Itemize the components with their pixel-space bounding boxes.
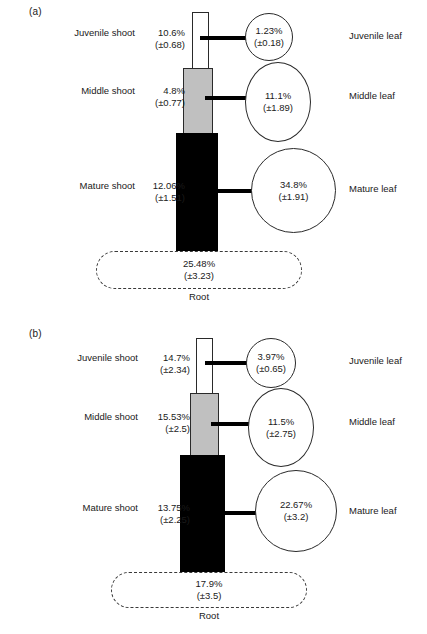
stem-segment-middle-a bbox=[183, 68, 213, 134]
leaf-middle-b-name: Middle leaf bbox=[349, 416, 395, 427]
leaf-mature-a-name: Mature leaf bbox=[349, 183, 397, 194]
shoot-mature-a-value: 12.06% bbox=[132, 180, 185, 192]
leaf-middle-a-name: Middle leaf bbox=[349, 90, 395, 101]
leaf-juvenile-a: 1.23% (±0.18) bbox=[245, 13, 293, 61]
panel-a: (a) 1.23% (±0.18) 11.1% (±1.89) 34.8% (±… bbox=[0, 0, 427, 310]
shoot-juvenile-a-value-group: 10.6% (±0.68) bbox=[139, 27, 185, 51]
stem-segment-juvenile-a bbox=[192, 12, 209, 69]
connector-mature-a bbox=[211, 189, 255, 193]
leaf-mature-a-error: (±1.91) bbox=[278, 191, 308, 203]
root-a-value: 25.48% bbox=[183, 258, 215, 270]
leaf-mature-b-error: (±3.2) bbox=[284, 511, 309, 523]
shoot-mature-a-error: (±1.51) bbox=[132, 192, 185, 204]
leaf-juvenile-b-value: 3.97% bbox=[258, 351, 285, 363]
leaf-juvenile-a-value: 1.23% bbox=[256, 25, 283, 37]
root-a-label: Root bbox=[96, 291, 302, 302]
connector-juvenile-a bbox=[200, 36, 249, 40]
root-b-error: (±3.5) bbox=[197, 590, 222, 602]
shoot-juvenile-a-name: Juvenile shoot bbox=[10, 27, 135, 38]
shoot-middle-a-name: Middle shoot bbox=[10, 85, 135, 96]
leaf-juvenile-b-error: (±0.65) bbox=[256, 363, 286, 375]
shoot-mature-a-value-group: 12.06% (±1.51) bbox=[132, 180, 185, 204]
leaf-middle-a: 11.1% (±1.89) bbox=[245, 62, 311, 142]
shoot-juvenile-b-error: (±2.34) bbox=[142, 364, 190, 376]
shoot-mature-b-value-group: 13.75% (±2.25) bbox=[136, 502, 190, 526]
shoot-juvenile-b-value: 14.7% bbox=[142, 352, 190, 364]
leaf-juvenile-b-name: Juvenile leaf bbox=[349, 355, 402, 366]
leaf-middle-b-value: 11.5% bbox=[268, 416, 294, 428]
leaf-juvenile-a-name: Juvenile leaf bbox=[349, 30, 402, 41]
leaf-middle-b: 11.5% (±2.75) bbox=[248, 388, 314, 467]
shoot-middle-a-error: (±0.77) bbox=[139, 97, 185, 109]
shoot-middle-b-error: (±2.5) bbox=[136, 423, 190, 435]
shoot-juvenile-b-value-group: 14.7% (±2.34) bbox=[142, 352, 190, 376]
shoot-mature-b-error: (±2.25) bbox=[136, 514, 190, 526]
root-a-error: (±3.23) bbox=[184, 270, 214, 282]
shoot-middle-a-value: 4.8% bbox=[139, 85, 185, 97]
leaf-middle-a-value: 11.1% bbox=[265, 90, 291, 102]
shoot-juvenile-a-error: (±0.68) bbox=[139, 39, 185, 51]
shoot-juvenile-b-name: Juvenile shoot bbox=[10, 352, 138, 363]
leaf-mature-b-name: Mature leaf bbox=[349, 505, 397, 516]
stem-segment-juvenile-b bbox=[196, 338, 213, 394]
leaf-juvenile-a-error: (±0.18) bbox=[254, 37, 284, 49]
connector-middle-b bbox=[211, 422, 251, 426]
panel-b: (b) 3.97% (±0.65) 11.5% (±2.75) 22.67% (… bbox=[0, 318, 427, 634]
leaf-mature-b: 22.67% (±3.2) bbox=[255, 470, 337, 552]
leaf-middle-b-error: (±2.75) bbox=[266, 428, 296, 440]
leaf-mature-b-value: 22.67% bbox=[280, 499, 312, 511]
shoot-mature-b-value: 13.75% bbox=[136, 502, 190, 514]
root-box-a: 25.48% (±3.23) bbox=[96, 251, 302, 289]
leaf-mature-a-value: 34.8% bbox=[280, 179, 307, 191]
root-box-b: 17.9% (±3.5) bbox=[111, 572, 307, 608]
leaf-mature-a: 34.8% (±1.91) bbox=[251, 148, 336, 233]
root-b-label: Root bbox=[111, 610, 307, 621]
leaf-middle-a-error: (±1.89) bbox=[263, 102, 293, 114]
shoot-juvenile-a-value: 10.6% bbox=[139, 27, 185, 39]
root-b-value: 17.9% bbox=[196, 578, 223, 590]
panel-a-label: (a) bbox=[29, 6, 42, 17]
shoot-middle-b-value: 15.53% bbox=[136, 411, 190, 423]
shoot-mature-a-name: Mature shoot bbox=[10, 180, 135, 191]
shoot-middle-b-value-group: 15.53% (±2.5) bbox=[136, 411, 190, 435]
connector-middle-a bbox=[205, 96, 249, 100]
panel-b-label: (b) bbox=[29, 328, 42, 339]
connector-juvenile-b bbox=[205, 361, 250, 365]
shoot-middle-b-name: Middle shoot bbox=[10, 411, 138, 422]
shoot-mature-b-name: Mature shoot bbox=[10, 502, 138, 513]
shoot-middle-a-value-group: 4.8% (±0.77) bbox=[139, 85, 185, 109]
connector-mature-b bbox=[218, 511, 258, 515]
leaf-juvenile-b: 3.97% (±0.65) bbox=[246, 338, 296, 388]
